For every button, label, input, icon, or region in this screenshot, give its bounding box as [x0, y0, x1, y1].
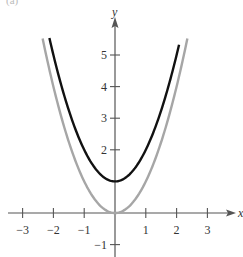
curve-x-squared-plus-one [49, 38, 179, 181]
x-tick-label: −3 [16, 223, 29, 237]
x-axis-label: x [237, 206, 243, 220]
function-graph: −3−2−1123−12345xy [0, 0, 243, 257]
x-tick-label: 3 [204, 223, 210, 237]
y-tick-label: 5 [101, 48, 107, 62]
y-tick-label: 2 [101, 143, 107, 157]
y-tick-label: −1 [94, 238, 107, 252]
y-tick-label: 4 [101, 80, 107, 94]
x-tick-label: −2 [47, 223, 60, 237]
x-tick-label: 2 [174, 223, 180, 237]
y-axis-label: y [111, 5, 118, 19]
x-tick-label: −1 [78, 223, 91, 237]
axes [8, 17, 236, 257]
x-tick-label: 1 [143, 223, 149, 237]
y-tick-label: 3 [101, 111, 107, 125]
